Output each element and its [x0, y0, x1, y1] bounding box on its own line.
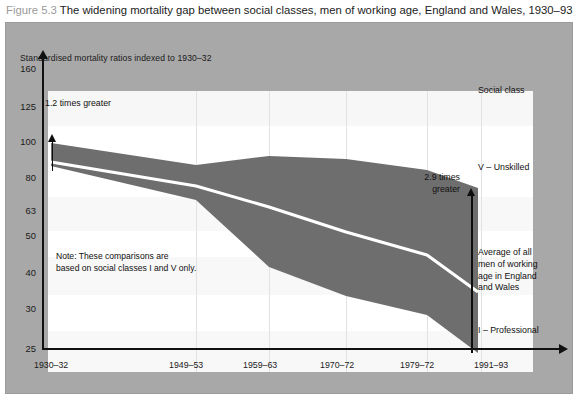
chart-note-line1: Note: These comparisons are — [56, 250, 196, 262]
legend-label-i-professional: I – Professional — [478, 325, 539, 337]
x-tick-1930-32: 1930–32 — [34, 360, 68, 370]
figure-container: Figure 5.3 The widening mortality gap be… — [0, 0, 579, 398]
legend-label-average-line4: and Wales — [478, 282, 538, 294]
chart-panel: Standardised mortality ratios indexed to… — [5, 22, 573, 394]
y-tick-100: 100 — [6, 136, 36, 147]
y-tick-50: 50 — [6, 230, 36, 241]
y-tick-125: 125 — [6, 101, 36, 112]
legend-label-average: Average of all men of working age in Eng… — [478, 247, 538, 294]
x-tick-1949-53: 1949–53 — [169, 360, 203, 370]
y-tick-80: 80 — [6, 172, 36, 183]
legend-label-average-line3: age in England — [478, 271, 538, 283]
annotation-2-9-line2: greater — [378, 184, 460, 196]
chart-note: Note: These comparisons are based on soc… — [56, 250, 196, 274]
y-axis-title: Standardised mortality ratios indexed to… — [20, 53, 212, 63]
x-axis — [42, 348, 560, 350]
figure-caption-text: The widening mortality gap between socia… — [60, 4, 573, 16]
annotation-1-2-times-greater: 1.2 times greater — [45, 98, 111, 110]
y-tick-63: 63 — [6, 205, 36, 216]
ratio-arrow-left — [52, 141, 54, 171]
y-axis-tick-labels: 160 125 100 80 63 50 40 30 25 — [4, 0, 36, 398]
y-axis — [42, 58, 44, 350]
chart-note-line2: based on social classes I and V only. — [56, 262, 196, 274]
x-tick-1991-93: 1991–93 — [474, 360, 508, 370]
y-tick-25: 25 — [6, 343, 36, 354]
annotation-2-9-times-greater: 2.9 times greater — [378, 172, 460, 195]
x-tick-1979-72: 1979–72 — [400, 360, 434, 370]
legend-label-average-line1: Average of all — [478, 247, 538, 259]
legend-heading: Social class — [478, 85, 524, 97]
mortality-band-series — [48, 91, 533, 372]
y-tick-40: 40 — [6, 267, 36, 278]
figure-caption: Figure 5.3 The widening mortality gap be… — [6, 3, 576, 17]
legend-label-average-line2: men of working — [478, 259, 538, 271]
legend-label-v-unskilled: V – Unskilled — [478, 162, 529, 174]
x-tick-1970-72: 1970–72 — [320, 360, 354, 370]
y-tick-160: 160 — [6, 63, 36, 74]
annotation-2-9-line1: 2.9 times — [378, 172, 460, 184]
plot-area — [48, 91, 533, 372]
y-tick-30: 30 — [6, 303, 36, 314]
ratio-arrow-right — [471, 195, 473, 353]
x-tick-1959-63: 1959–63 — [243, 360, 277, 370]
